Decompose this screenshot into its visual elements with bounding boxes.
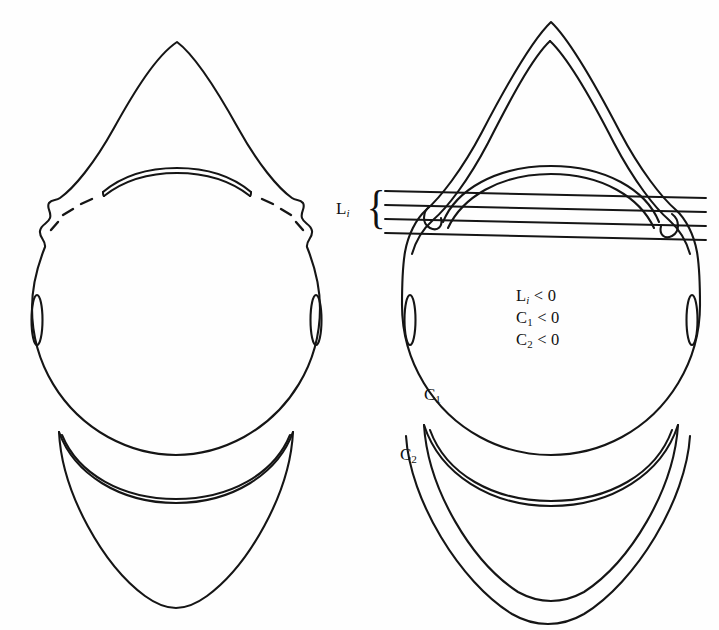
right-jaw-upper-inner — [430, 430, 672, 501]
ineq-li-sub: i — [526, 294, 529, 306]
left-suture-arc-cap-right — [250, 192, 251, 196]
inequality-block: Li < 0 C1 < 0 C2 < 0 — [516, 288, 559, 354]
left-jaw-upper-inner — [62, 435, 290, 499]
label-li: Li — [336, 200, 350, 219]
label-li-sub: i — [346, 207, 349, 219]
ineq-li-base: L — [516, 286, 526, 305]
ineq-c2-base: C — [516, 330, 527, 349]
measure-lines — [385, 191, 706, 240]
label-c2-base: C — [400, 445, 411, 464]
label-c1: C1 — [424, 386, 441, 405]
right-jaw-upper-outer — [424, 425, 678, 506]
left-suture-dashes-right — [262, 199, 303, 230]
left-jaw-upper-outer — [59, 432, 293, 503]
anatomical-line-drawing — [0, 0, 719, 630]
figure-page: Li { Li < 0 C1 < 0 C2 < 0 C1 C2 — [0, 0, 719, 630]
right-cranium-outline-inner — [550, 41, 690, 254]
right-jaw-body-outer — [406, 436, 690, 624]
measure-line-4 — [385, 233, 706, 240]
left-cranium-outline — [32, 42, 320, 455]
ineq-c1-sub: 1 — [527, 316, 533, 328]
right-ear-marker-left — [405, 295, 416, 345]
left-jaw-body — [59, 432, 293, 608]
label-li-base: L — [336, 199, 346, 218]
inequality-row-li: Li < 0 — [516, 288, 559, 306]
ineq-c2-sub: 2 — [527, 338, 533, 350]
right-jaw-body-inner — [424, 425, 678, 601]
ineq-li-rel: < 0 — [534, 286, 556, 305]
label-c2-sub: 2 — [411, 453, 417, 465]
left-cranium-figure — [32, 42, 322, 608]
inequality-row-c2: C2 < 0 — [516, 332, 559, 350]
ineq-c2-rel: < 0 — [537, 330, 559, 349]
left-suture-arc-inner — [104, 173, 250, 196]
left-suture-arc-outer — [103, 168, 251, 192]
label-c1-sub: 1 — [435, 393, 441, 405]
right-knot-left — [424, 206, 441, 229]
left-suture-dashes-left — [51, 199, 92, 230]
label-c1-base: C — [424, 385, 435, 404]
brace-li-icon: { — [367, 185, 386, 231]
left-suture-arc-cap-left — [103, 192, 104, 196]
right-ear-marker-right — [687, 295, 698, 345]
inequality-row-c1: C1 < 0 — [516, 310, 559, 328]
ineq-c1-rel: < 0 — [537, 308, 559, 327]
ineq-c1-base: C — [516, 308, 527, 327]
label-c2: C2 — [400, 446, 417, 465]
